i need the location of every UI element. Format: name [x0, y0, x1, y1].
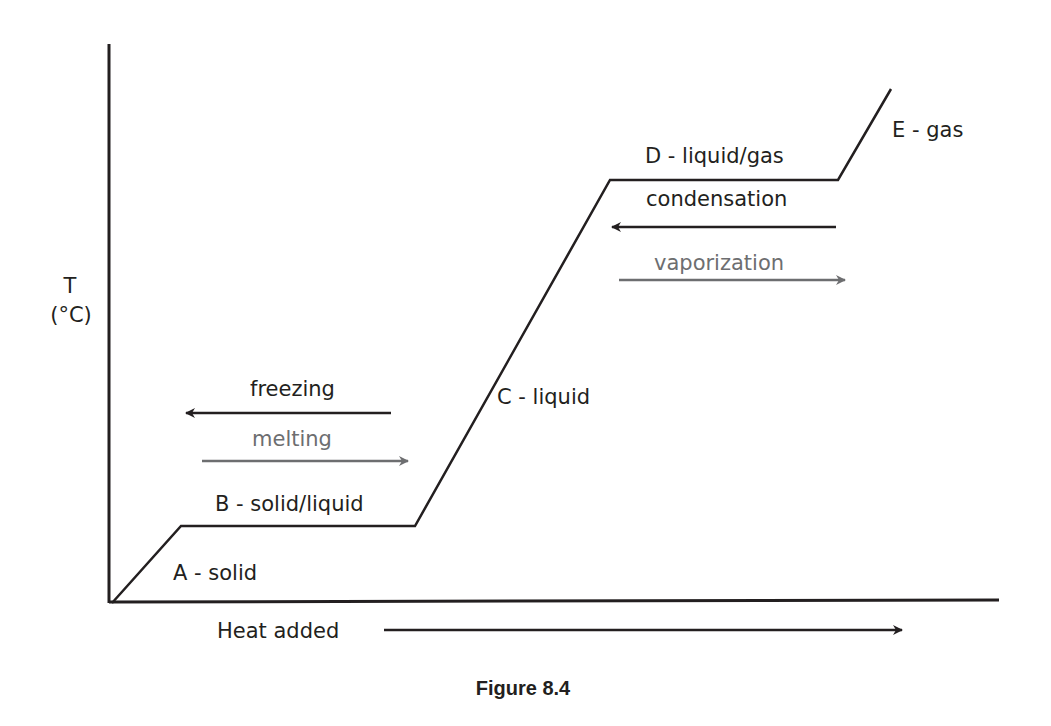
- freezing-label: freezing: [250, 377, 335, 401]
- vaporization-label: vaporization: [654, 251, 784, 275]
- segment-c-label: C - liquid: [497, 385, 590, 409]
- segment-a-label: A - solid: [173, 561, 257, 585]
- x-axis-label: Heat added: [217, 619, 339, 643]
- segment-d-label: D - liquid/gas: [645, 144, 784, 168]
- segment-e-label: E - gas: [892, 118, 963, 142]
- condensation-label: condensation: [646, 187, 787, 211]
- x-axis: [109, 600, 999, 602]
- y-axis-label-unit: (°C): [50, 303, 92, 327]
- melting-label: melting: [252, 427, 332, 451]
- y-axis-label-t: T: [63, 274, 77, 298]
- segment-b-label: B - solid/liquid: [215, 492, 364, 516]
- heating-curve-diagram: T (°C) A - solid B - solid/liquid C - li…: [0, 0, 1051, 726]
- figure-caption: Figure 8.4: [476, 677, 571, 699]
